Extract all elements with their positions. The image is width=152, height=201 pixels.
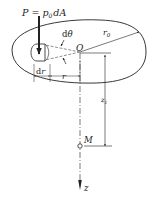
radial-line-upper [45,45,80,52]
point-M-label: M [83,135,93,145]
z-axis-arrowhead [78,180,82,190]
diagram-svg: P = p0dA dθ O r0 dr r z1 M z [0,0,152,201]
depth-label: z1 [100,96,107,105]
dtheta-label: dθ [62,29,73,39]
r-label: r [62,72,67,81]
radius-r0-label: r0 [103,28,111,38]
dr-label: dr [36,67,46,76]
diagram-canvas: P = p0dA dθ O r0 dr r z1 M z [0,0,152,201]
dtheta-tick-lower [63,58,66,64]
load-label: P = p0dA [21,7,66,19]
radial-line-lower [45,52,80,60]
area-element-arc [45,44,49,61]
point-M-marker [78,144,82,148]
axis-z-label: z [83,183,89,193]
origin-label: O [76,43,84,53]
dtheta-tick-upper [61,40,64,46]
